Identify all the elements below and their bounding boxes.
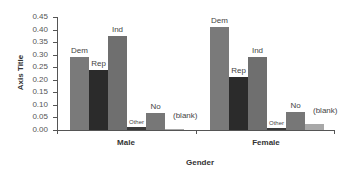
y-tick-label: 0.30 — [24, 50, 48, 59]
bar-chart: Axis Title 0.000.050.100.150.200.250.300… — [0, 0, 353, 171]
data-label: Ind — [104, 25, 131, 34]
bar-male-no — [146, 113, 165, 130]
bar-male-rep — [89, 70, 108, 130]
bar-female-dem — [210, 27, 229, 130]
bar-male-other — [127, 127, 146, 130]
x-axis-tick — [196, 130, 197, 134]
y-tick-label: 0.40 — [24, 25, 48, 34]
x-axis-title: Gender — [150, 158, 250, 167]
data-label: (blank) — [313, 106, 337, 115]
bar-male-ind — [108, 36, 127, 130]
data-label: No — [282, 101, 309, 110]
bar-female-other — [267, 128, 286, 130]
category-label-female: Female — [226, 138, 306, 147]
bar-male-dem — [70, 57, 89, 130]
bar-male-blank — [165, 129, 184, 130]
y-tick-label: 0.00 — [24, 125, 48, 134]
y-tick-label: 0.10 — [24, 100, 48, 109]
data-label: Rep — [89, 59, 108, 68]
data-label: Dem — [206, 16, 233, 25]
y-tick-label: 0.20 — [24, 75, 48, 84]
x-axis-tick — [334, 130, 335, 134]
data-label: Dem — [66, 46, 93, 55]
bar-female-blank — [305, 124, 324, 130]
bar-female-rep — [229, 77, 248, 130]
y-tick-label: 0.15 — [24, 87, 48, 96]
data-label: Other — [126, 119, 147, 125]
data-label: No — [142, 102, 169, 111]
x-axis-tick — [57, 130, 58, 134]
y-tick-label: 0.45 — [24, 12, 48, 21]
bar-female-ind — [248, 57, 267, 130]
data-label: (blank) — [173, 111, 197, 120]
category-label-male: Male — [86, 138, 166, 147]
y-tick-label: 0.05 — [24, 112, 48, 121]
y-tick-label: 0.35 — [24, 37, 48, 46]
y-tick-label: 0.25 — [24, 62, 48, 71]
y-axis-line — [57, 17, 58, 131]
data-label: Rep — [229, 66, 248, 75]
data-label: Other — [266, 120, 287, 126]
bar-female-no — [286, 112, 305, 130]
data-label: Ind — [244, 46, 271, 55]
